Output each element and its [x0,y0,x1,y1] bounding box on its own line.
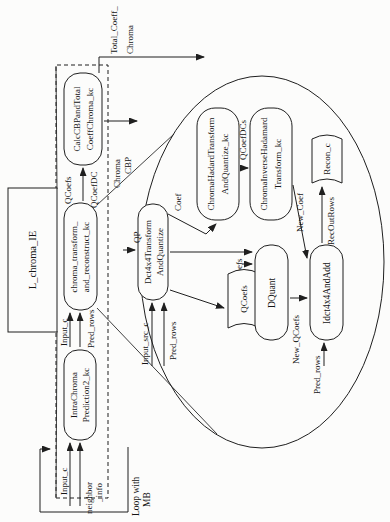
label-new-coef: New_Coef [295,193,305,232]
node-chroma-transform-line2: and_reconstruct_kc [81,222,91,292]
node-hadamard-box [197,108,239,220]
store-recon-label: Recon_c [322,143,332,175]
label-input-c-1: Input_c [59,468,69,496]
edge-dct-to-qcoefs-store [170,290,224,308]
loop-annotation-line2: MB [142,492,152,507]
node-inverse-hadamard-line2: Transform_kc [273,139,283,190]
label-total-coeff-line1: Total_Coeff_ [109,6,119,54]
node-intrachroma-line1: IntraChroma [69,372,79,418]
rotated-diagram: Loop with MB L_chroma_IE IntraChroma Pre… [0,0,390,522]
label-coef: Coef [173,194,183,212]
node-calccbp-line2: CoeffChroma_kc [85,88,95,150]
expansion-line-transform-right [97,134,174,205]
label-total-coeff-line2: Chroma [125,25,135,54]
label-pred-rows-2: Pred_rows [168,321,178,360]
store-qcoefs-label: QCoefs [239,285,249,313]
dataflow-diagram: Loop with MB L_chroma_IE IntraChroma Pre… [0,0,390,522]
label-qcoefdcs: QCoefDCs [238,120,248,160]
node-calccbp-box [64,73,102,165]
label-pred-rows-1: Pred_rows [86,309,96,348]
label-qp: QP [132,231,142,243]
node-inverse-hadamard-line1: ChromaInverseHadamard [259,117,269,210]
loop-annotation-line1: Loop with [131,476,141,516]
label-neighbor-line1: neighbor [84,482,94,514]
node-idct-label: Idct4x4AndAdd [322,262,332,324]
node-hadamard-line1: ChromaHadardTransform [206,117,216,210]
label-recoutrows: RecOutRows [326,197,336,245]
label-input-c-2: Input_c [59,319,69,347]
node-dct4x4-line2: AndQuantize [155,228,165,276]
label-input-src-c: Input_src_c [140,323,150,366]
node-calccbp-line1: CalcCBPandTotal [72,86,82,151]
node-l-chroma-ie-label: L_chroma_IE [27,231,38,289]
node-hadamard-line2: AndQuantize_kc [220,134,230,195]
figure-page: Loop with MB L_chroma_IE IntraChroma Pre… [0,0,390,522]
label-neighbor-line2: _info [94,483,104,503]
node-inverse-hadamard-box [250,108,292,220]
edge-total-coeff-chroma-out [99,57,204,73]
expansion-line-transform-left [97,308,217,434]
label-qcoefdc: QCoefDC [89,172,99,209]
label-new-qcoefs: New_QCoefs [291,315,301,364]
node-chroma-transform-line1: chroma_transform_ [69,221,79,292]
node-dct4x4-line1: Dct4x4Transform [143,220,153,284]
label-pred-rows-3: Pred_rows [312,355,322,394]
label-cbp: CBP [123,157,133,174]
label-chroma: Chroma [112,159,122,188]
label-qcoefs-1: QCoefs [63,176,73,204]
node-dquant-label: DQuant [267,278,277,308]
node-intrachroma-line2: Prediction2_kc [81,368,91,423]
